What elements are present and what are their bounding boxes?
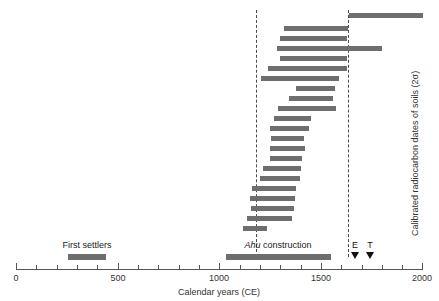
x-tick-1300 — [280, 265, 281, 269]
x-tick-800 — [179, 265, 180, 269]
marker-t-text: T — [367, 240, 373, 250]
x-tick-1400 — [301, 265, 302, 269]
x-tick-1000 — [219, 263, 220, 269]
range-bar — [247, 216, 292, 221]
range-bar — [270, 156, 302, 161]
ahu-construction-label: Ahu construction — [244, 240, 311, 250]
x-tick-1100 — [240, 265, 241, 269]
x-axis-line — [16, 269, 423, 270]
first-settlers-label: First settlers — [62, 240, 111, 250]
range-bar — [278, 106, 336, 111]
x-tick-1700 — [362, 265, 363, 269]
x-tick-200 — [57, 265, 58, 269]
range-bar — [270, 126, 309, 131]
range-bar — [349, 13, 423, 18]
ahu-label-italic: Ahu — [244, 240, 260, 250]
x-tick-label-500: 500 — [110, 273, 125, 283]
x-tick-1500 — [321, 263, 322, 269]
range-bar — [280, 56, 347, 61]
x-tick-900 — [199, 265, 200, 269]
marker-e-letter: E — [352, 240, 358, 250]
x-tick-1900 — [402, 265, 403, 269]
x-tick-label-0: 0 — [13, 273, 18, 283]
x-tick-1200 — [260, 265, 261, 269]
range-bar — [289, 96, 333, 101]
range-bar — [270, 146, 305, 151]
x-axis-title: Calendar years (CE) — [178, 287, 260, 297]
x-tick-label-2000: 2000 — [412, 273, 432, 283]
x-tick-1600 — [341, 265, 342, 269]
range-bar — [280, 36, 347, 41]
x-tick-400 — [97, 265, 98, 269]
marker-e-triangle-icon — [351, 252, 359, 259]
marker-e-text: E — [352, 240, 358, 250]
range-bar — [296, 86, 335, 91]
range-bar — [243, 226, 267, 231]
x-tick-1800 — [382, 265, 383, 269]
first-settlers-bar — [68, 254, 106, 260]
x-tick-100 — [36, 265, 37, 269]
range-bar — [250, 196, 295, 201]
range-bar — [284, 26, 348, 31]
x-tick-0 — [16, 263, 17, 269]
x-tick-600 — [138, 265, 139, 269]
marker-t-triangle-icon — [366, 252, 374, 259]
first-settlers-label-text: First settlers — [62, 240, 111, 250]
range-bar — [261, 76, 339, 81]
range-bar — [260, 176, 300, 181]
range-bar — [251, 206, 294, 211]
y-axis-title: Calibrated radiocarbon dates of soils (2… — [410, 71, 420, 236]
ahu-label-rest: construction — [260, 240, 311, 250]
range-bar — [268, 66, 347, 71]
range-bar — [271, 136, 304, 141]
x-tick-500 — [118, 263, 119, 269]
x-tick-label-1000: 1000 — [209, 273, 229, 283]
range-bar — [274, 116, 311, 121]
range-bar — [263, 166, 301, 171]
range-bar — [277, 46, 382, 51]
x-tick-2000 — [422, 263, 423, 269]
plot-area: First settlers Ahu construction E T 0 50… — [0, 0, 439, 301]
x-tick-700 — [158, 265, 159, 269]
ahu-construction-bar — [226, 254, 331, 260]
x-tick-label-1500: 1500 — [311, 273, 331, 283]
radiocarbon-date-chart: First settlers Ahu construction E T 0 50… — [0, 0, 439, 301]
range-bar — [252, 186, 296, 191]
marker-t-letter: T — [367, 240, 373, 250]
x-tick-300 — [77, 265, 78, 269]
